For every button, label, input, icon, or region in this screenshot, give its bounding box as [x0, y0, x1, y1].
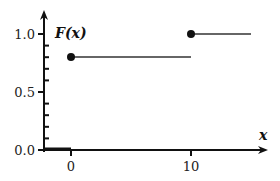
y-tick-label: 0.5 [14, 85, 35, 100]
y-tick-label: 1.0 [14, 27, 35, 42]
x-tick-label: 0 [67, 159, 75, 174]
step-function-chart: 1.0 0.5 0.0 0 10 F(x) x [0, 0, 280, 181]
y-axis-label: F(x) [54, 25, 87, 41]
closed-point-icon [67, 53, 75, 61]
closed-point-icon [187, 30, 195, 38]
x-tick-label: 10 [183, 159, 200, 174]
x-axis-label: x [258, 127, 268, 143]
y-tick-label: 0.0 [14, 143, 35, 158]
